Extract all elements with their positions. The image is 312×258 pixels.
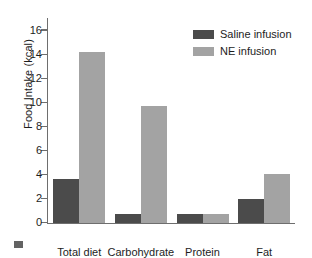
y-axis-tick — [41, 174, 48, 175]
y-axis-tick — [41, 102, 48, 103]
y-axis-tick-label: 12 — [2, 73, 42, 84]
bar — [177, 214, 203, 223]
legend-item: Saline infusion — [193, 27, 292, 42]
y-axis-tick-label: 16 — [2, 25, 42, 36]
y-axis-tick — [41, 222, 48, 223]
legend-item: NE infusion — [193, 44, 292, 59]
bar-group — [53, 18, 105, 223]
x-axis-tick-label: Fat — [216, 246, 312, 258]
y-axis-tick-label: 2 — [2, 193, 42, 204]
y-axis-tick-label: 8 — [2, 121, 42, 132]
y-axis-tick-label: 10 — [2, 97, 42, 108]
y-axis-tick-label: 4 — [2, 169, 42, 180]
legend-label: NE infusion — [220, 46, 276, 57]
bar — [141, 106, 167, 223]
y-axis-tick — [41, 150, 48, 151]
bar — [79, 52, 105, 223]
bar — [115, 214, 141, 223]
y-axis-tick — [41, 78, 48, 79]
y-axis-tick — [41, 29, 48, 30]
bar — [264, 174, 290, 223]
bar — [238, 199, 264, 223]
y-axis-tick — [41, 126, 48, 127]
bar-group — [115, 18, 167, 223]
y-axis-tick — [41, 198, 48, 199]
y-axis-tick-label: 6 — [2, 145, 42, 156]
legend-label: Saline infusion — [220, 29, 292, 40]
legend-swatch-icon — [193, 30, 214, 39]
y-axis-tick-label: 0 — [2, 217, 42, 228]
bar — [203, 214, 229, 223]
page-artifact-mark — [14, 241, 23, 248]
chart-legend: Saline infusionNE infusion — [193, 27, 292, 61]
y-axis-tick — [41, 54, 48, 55]
legend-swatch-icon — [193, 47, 214, 56]
y-axis-tick-label: 14 — [2, 49, 42, 60]
x-axis-line — [47, 223, 295, 224]
bar — [53, 179, 79, 222]
